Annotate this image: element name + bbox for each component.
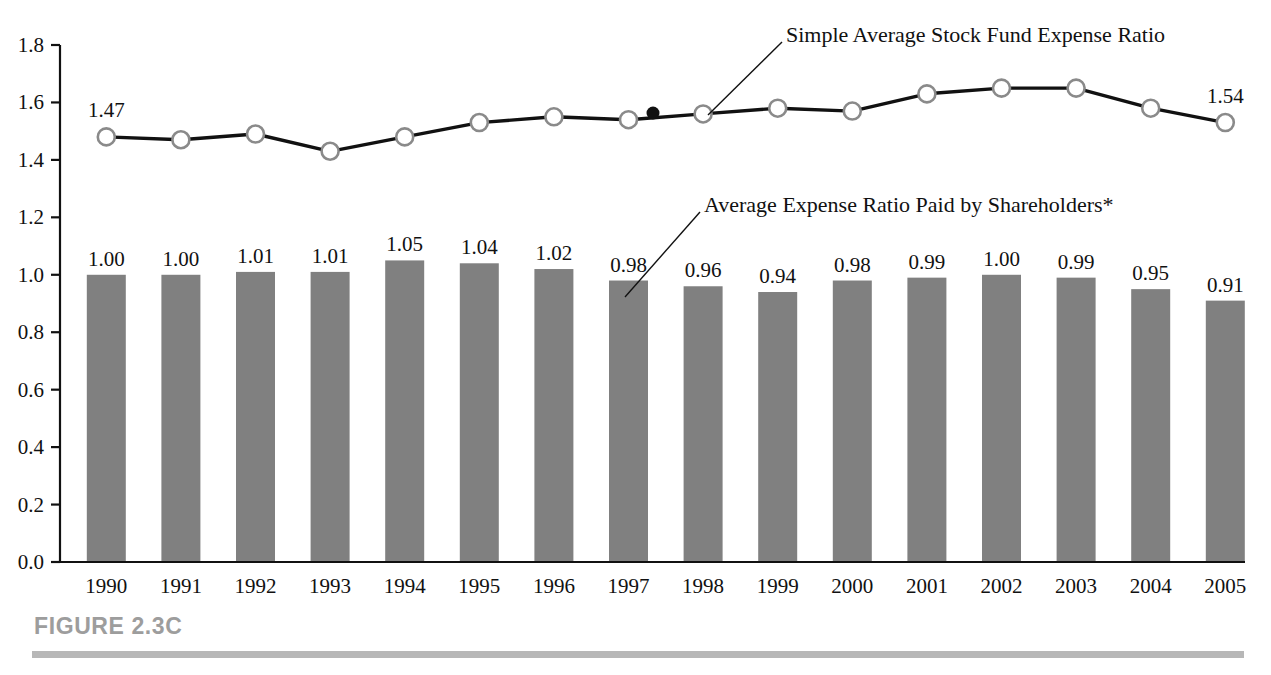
bar [236,272,275,562]
bar [758,292,797,562]
bar-series-layer [87,260,1245,562]
line-marker [322,143,339,160]
line-series-layer [98,80,1234,160]
x-axis-tick-label: 1995 [458,574,500,598]
line-marker [247,126,264,143]
line-series-callout-label: Simple Average Stock Fund Expense Ratio [786,22,1165,47]
bar [609,281,648,562]
line-marker [545,108,562,125]
x-axis-tick-label: 1994 [384,574,427,598]
x-axis-tick-label: 1991 [160,574,202,598]
bar [534,269,573,562]
figure-container: 0.00.20.40.60.81.01.21.41.61.8 1.001.001… [0,0,1271,675]
bar [1131,289,1170,562]
bar [1206,301,1245,562]
bar-value-label: 1.00 [983,247,1020,271]
line-marker [396,128,413,145]
bar [833,281,872,562]
bar [385,260,424,562]
bar [982,275,1021,562]
bar [311,272,350,562]
x-axis-tick-label: 1999 [757,574,799,598]
bar-value-label: 1.00 [88,247,125,271]
bar-value-label: 1.01 [312,244,349,268]
bar-value-label: 0.98 [834,253,871,277]
line-value-label: 1.54 [1207,84,1244,108]
line-marker [620,111,637,128]
expense-ratio-chart: 0.00.20.40.60.81.01.21.41.61.8 1.001.001… [0,0,1271,675]
x-axis-tick-label: 2000 [831,574,873,598]
x-axis-tick-label: 2003 [1055,574,1097,598]
bar [684,286,723,562]
bar-series-callout-label: Average Expense Ratio Paid by Shareholde… [704,192,1114,217]
bar-value-label: 0.95 [1132,261,1169,285]
line-marker [98,128,115,145]
line-marker [1142,100,1159,117]
line-marker [769,100,786,117]
bar-value-label: 0.99 [1058,250,1095,274]
line-marker [918,85,935,102]
x-axis-tick-label: 1996 [533,574,575,598]
y-axis-tick-label: 0.6 [18,378,44,402]
line-marker [172,131,189,148]
bar-value-label: 1.04 [461,235,498,259]
bar [87,275,126,562]
x-axis-tick-label: 1997 [608,574,650,598]
x-axis-tick-label: 1998 [682,574,724,598]
x-axis-tick-label: 2001 [906,574,948,598]
y-axis-tick-label: 1.4 [18,148,45,172]
bar-value-label: 0.98 [610,253,647,277]
y-axis-tick-label: 0.2 [18,493,44,517]
y-axis-tick-label: 1.2 [18,205,44,229]
x-axis-tick-label: 1990 [85,574,127,598]
y-axis-tick-label: 1.8 [18,33,44,57]
line-series-callout-anchor-dot [647,107,660,120]
line-marker [1068,80,1085,97]
x-axis-tick-label: 2005 [1204,574,1246,598]
line-marker [993,80,1010,97]
bar [1057,278,1096,562]
bar-value-label: 0.96 [685,258,722,282]
bar [460,263,499,562]
bar-value-label: 1.01 [237,244,274,268]
y-axis-tick-label: 1.6 [18,90,44,114]
bar-value-label: 0.91 [1207,273,1244,297]
y-axis-tick-label: 1.0 [18,263,44,287]
figure-bottom-rule [32,651,1244,658]
line-value-label: 1.47 [88,98,125,122]
bar [161,275,200,562]
y-axis-tick-label: 0.0 [18,550,44,574]
x-axis-tick-label: 1993 [309,574,351,598]
line-marker [844,103,861,120]
bar [907,278,946,562]
line-marker [1217,114,1234,131]
bar-value-label: 1.05 [386,232,423,256]
bar-value-label: 0.94 [759,264,796,288]
y-axis-tick-label: 0.8 [18,320,44,344]
x-axis-tick-label: 2004 [1130,574,1173,598]
line-marker [471,114,488,131]
line-series-path [106,88,1225,151]
bar-value-label: 1.02 [536,241,573,265]
x-axis-labels-layer: 1990199119921993199419951996199719981999… [85,574,1246,598]
x-axis-tick-label: 2002 [981,574,1023,598]
bar-value-label: 0.99 [909,250,946,274]
figure-caption: FIGURE 2.3C [34,613,182,640]
bar-value-label: 1.00 [163,247,200,271]
x-axis-tick-label: 1992 [235,574,277,598]
y-axis-tick-label: 0.4 [18,435,45,459]
